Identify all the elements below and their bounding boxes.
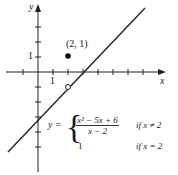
y-axis-arrow-icon <box>35 4 41 12</box>
case2-value: 1 <box>78 141 83 151</box>
point-label: (2, 1) <box>66 38 88 49</box>
filled-point-icon <box>65 53 71 59</box>
fraction: x² − 5x + 6 x − 2 <box>76 115 119 136</box>
open-point-icon <box>66 85 71 90</box>
formula-lhs: y = <box>48 119 62 130</box>
fraction-denominator: x − 2 <box>76 126 119 136</box>
y-axis-label: y <box>29 1 33 12</box>
case1-condition: if x ≠ 2 <box>136 120 161 130</box>
x-tick-label: 1 <box>50 75 55 86</box>
case2-condition: if x = 2 <box>136 141 162 151</box>
y-tick-label: 1 <box>28 50 33 61</box>
x-axis-label: x <box>160 75 164 86</box>
fraction-numerator: x² − 5x + 6 <box>76 115 119 126</box>
